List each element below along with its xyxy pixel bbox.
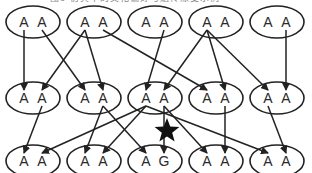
inheritance-arrow — [42, 106, 146, 153]
allele-label: A — [141, 14, 151, 30]
individual-node: AA — [189, 145, 243, 173]
individual-ellipse — [189, 6, 243, 38]
allele-label: A — [19, 153, 29, 169]
individual-ellipse — [250, 6, 304, 38]
individual-node: AA — [189, 6, 243, 38]
allele-label: A — [263, 90, 273, 106]
individual-ellipse — [189, 82, 243, 114]
allele-label: A — [80, 14, 90, 30]
allele-label: A — [37, 14, 47, 30]
inheritance-arrow — [85, 30, 103, 90]
star-icon — [155, 118, 180, 142]
allele-label: A — [141, 90, 151, 106]
allele-label: A — [202, 14, 212, 30]
allele-label: A — [159, 90, 169, 106]
mutation-marker — [155, 118, 180, 142]
allele-label: A — [281, 90, 291, 106]
allele-label: A — [37, 153, 47, 169]
individual-node: AA — [6, 145, 60, 173]
individual-node: AG — [128, 145, 182, 173]
inheritance-arrow — [164, 30, 207, 90]
individual-node: AA — [250, 145, 304, 173]
allele-label: A — [141, 153, 151, 169]
individual-node: AA — [67, 6, 121, 38]
allele-label: G — [159, 153, 170, 169]
allele-label: A — [37, 90, 47, 106]
individual-ellipse — [250, 145, 304, 173]
allele-label: A — [159, 14, 169, 30]
individual-node: AA — [67, 82, 121, 114]
allele-label: A — [220, 90, 230, 106]
individual-ellipse — [189, 145, 243, 173]
individual-ellipse — [6, 145, 60, 173]
individual-ellipse — [128, 145, 182, 173]
allele-label: A — [202, 90, 212, 106]
individual-ellipse — [6, 82, 60, 114]
individual-node: AA — [6, 6, 60, 38]
inheritance-arrow — [146, 30, 164, 90]
individual-ellipse — [67, 82, 121, 114]
individual-ellipse — [250, 82, 304, 114]
allele-label: A — [263, 153, 273, 169]
individual-node: AA — [250, 82, 304, 114]
allele-label: A — [19, 14, 29, 30]
individual-node: AA — [250, 6, 304, 38]
allele-label: A — [80, 153, 90, 169]
allele-label: A — [98, 153, 108, 169]
allele-label: A — [220, 14, 230, 30]
individual-ellipse — [67, 6, 121, 38]
individual-node: AA — [189, 82, 243, 114]
individual-ellipse — [67, 145, 121, 173]
inheritance-diagram: AAAAAAAAAAAAAAAAAAAAAAAAAGAAAA — [0, 0, 312, 173]
individual-node: AA — [6, 82, 60, 114]
allele-label: A — [263, 14, 273, 30]
allele-label: A — [98, 14, 108, 30]
allele-label: A — [202, 153, 212, 169]
nodes: AAAAAAAAAAAAAAAAAAAAAAAAAGAAAA — [6, 6, 304, 173]
individual-node: AA — [67, 145, 121, 173]
allele-label: A — [80, 90, 90, 106]
edges — [24, 30, 286, 153]
individual-node: AA — [128, 6, 182, 38]
allele-label: A — [98, 90, 108, 106]
allele-label: A — [281, 153, 291, 169]
individual-ellipse — [6, 6, 60, 38]
allele-label: A — [281, 14, 291, 30]
allele-label: A — [19, 90, 29, 106]
individual-ellipse — [128, 6, 182, 38]
allele-label: A — [220, 153, 230, 169]
